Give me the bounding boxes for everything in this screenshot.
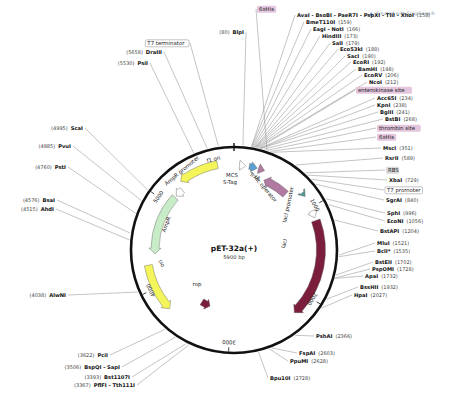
site-label[interactable]: MluI(1521)	[377, 240, 409, 246]
tick-label: 5000	[152, 189, 165, 204]
site-position: (589)	[402, 155, 415, 161]
site-label[interactable]: ApaI(1732)	[365, 273, 398, 280]
site-label[interactable]: BstBI(268)	[385, 116, 417, 122]
site-text: (3367)PflFI - Tth111I	[74, 382, 135, 388]
enzyme-name: ApaI	[365, 273, 378, 280]
enzyme-name: PstI	[55, 164, 66, 170]
site-label[interactable]: (3506)BspQI - SapI	[65, 364, 120, 371]
site-text: BclI*(1535)	[377, 248, 410, 254]
site-label[interactable]: MscI(351)	[383, 145, 413, 151]
site-label[interactable]: (5658)DraIII	[126, 49, 162, 55]
site-label[interactable]: EcoNI(1056)	[387, 218, 423, 224]
site-label[interactable]: 6xHis	[377, 134, 396, 141]
site-label[interactable]: NcoI(212)	[369, 79, 398, 85]
site-text: BstBI(268)	[385, 116, 417, 122]
site-text: BssHII(1932)	[360, 284, 398, 290]
enzyme-name: PshAI	[316, 333, 333, 339]
site-label[interactable]: BclI*(1535)	[377, 248, 410, 254]
enzyme-name: BstBI	[385, 116, 400, 122]
tick-mark	[151, 192, 154, 194]
site-label[interactable]: T7 terminator	[145, 40, 189, 47]
site-text: PshAI(2366)	[316, 333, 352, 339]
site-position: (1932)	[381, 284, 398, 290]
site-text: (4038)AlwNI	[30, 292, 67, 298]
site-label[interactable]: (3622)PciI	[78, 352, 108, 358]
site-label[interactable]: PpuMI(2628)	[290, 358, 328, 365]
site-label[interactable]: SphI(996)	[387, 210, 417, 217]
site-label[interactable]: (4760)PstI	[35, 164, 66, 170]
site-label[interactable]: (4515)AhdI	[21, 206, 54, 212]
feature-box-label: 6xHis	[379, 134, 394, 140]
site-label[interactable]: BssHII(1932)	[360, 284, 398, 290]
site-label[interactable]: EagI - NotI(166)	[313, 26, 360, 33]
site-label[interactable]: PshAI(2366)	[316, 333, 352, 339]
site-text: (5530)PsiI	[118, 60, 148, 66]
site-position: (996)	[403, 210, 416, 216]
leader-line	[57, 200, 130, 233]
site-label[interactable]: KpnI(238)	[377, 102, 407, 109]
site-text: AvaI - BsoBI - PaeR7I - PspXI - TliI - X…	[297, 12, 430, 19]
site-label[interactable]: BglII(241)	[380, 109, 410, 116]
plasmid-length: 5900 bp	[223, 254, 245, 261]
site-label[interactable]: PspOMI(1728)	[372, 266, 414, 273]
site-label[interactable]: (80)BlpI	[219, 29, 244, 36]
site-text: SgrAI(840)	[386, 197, 418, 204]
site-label[interactable]: RBS	[386, 167, 399, 174]
site-label[interactable]: 6xHis	[257, 6, 276, 13]
site-label[interactable]: RsrII(589)	[385, 155, 415, 161]
site-label[interactable]: (4995)ScaI	[51, 125, 83, 131]
site-label[interactable]: FspAI(2603)	[299, 350, 335, 357]
site-label[interactable]: Bpu10I(2728)	[270, 375, 310, 382]
leader-line	[296, 158, 383, 165]
site-position: (840)	[405, 197, 418, 203]
enzyme-name: PvuI	[58, 143, 71, 149]
site-label[interactable]: EcoRI(192)	[353, 59, 386, 65]
site-label[interactable]: AvaI - BsoBI - PaeR7I - PspXI - TliI - X…	[297, 12, 430, 19]
site-label[interactable]: (3367)PflFI - Tth111I	[74, 382, 135, 388]
site-text: (4885)PvuI	[39, 143, 72, 149]
site-label[interactable]: HpaI(2027)	[354, 292, 387, 299]
site-label[interactable]: BmeT110I(159)	[306, 19, 352, 25]
enzyme-name: HpaI	[354, 292, 368, 299]
feature-box-label: T7 terminator	[146, 40, 185, 46]
site-label[interactable]: BstEII(1702)	[375, 259, 412, 265]
site-label[interactable]: Eco53kI(188)	[340, 46, 379, 52]
leader-line	[164, 52, 207, 148]
site-text: MscI(351)	[383, 145, 413, 151]
leader-line	[150, 63, 194, 153]
site-label[interactable]: (5530)PsiI	[118, 60, 148, 66]
site-text: XbaI(729)	[389, 177, 419, 183]
site-label[interactable]: (4576)BsaI	[23, 197, 55, 203]
tick-mark	[319, 201, 322, 203]
leader-line	[326, 199, 385, 213]
site-position: (4038)	[30, 292, 47, 298]
site-position: (2366)	[335, 333, 352, 339]
site-label[interactable]: HindIII(173)	[322, 33, 358, 39]
site-label[interactable]: EcoRV(206)	[364, 72, 399, 78]
site-text: KpnI(238)	[377, 102, 407, 109]
site-label[interactable]: (4885)PvuI	[39, 143, 72, 149]
enzyme-name: BglII	[380, 109, 393, 116]
leader-line	[68, 292, 138, 295]
site-position: (173)	[344, 33, 357, 39]
site-label[interactable]: T7 promoter	[385, 187, 423, 194]
site-label[interactable]: (3393)Bst1107I	[84, 374, 130, 380]
site-label[interactable]: SgrAI(840)	[386, 197, 418, 204]
enzyme-name: FspAI	[299, 350, 315, 357]
leader-line	[259, 352, 268, 378]
site-position: (729)	[405, 177, 418, 183]
site-label[interactable]: BstAPI(1204)	[380, 228, 419, 234]
enzyme-name: ScaI	[71, 125, 83, 131]
site-text: Eco53kI(188)	[340, 46, 379, 52]
leader-line	[335, 220, 378, 231]
site-label[interactable]: XbaI(729)	[389, 177, 419, 183]
site-text: EcoRI(192)	[353, 59, 386, 65]
site-position: (206)	[385, 72, 398, 78]
site-label[interactable]: thrombin site	[377, 125, 421, 132]
s-tag-feature	[249, 162, 257, 172]
leader-line	[257, 75, 362, 148]
site-label[interactable]: (4038)AlwNI	[30, 292, 67, 298]
site-label[interactable]: Acc65I(234)	[377, 95, 413, 101]
enzyme-name: MscI	[383, 145, 396, 151]
site-label[interactable]: enterokinase site	[356, 87, 412, 94]
